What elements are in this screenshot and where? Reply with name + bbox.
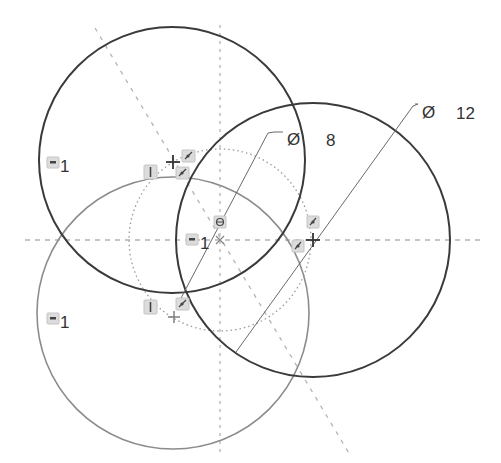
- equal-label: 1: [60, 157, 69, 176]
- equal-label: 1: [60, 313, 69, 332]
- dimension-value: 8: [326, 131, 335, 150]
- tangent-constraint-icon[interactable]: [182, 150, 195, 162]
- tangent-constraint-icon[interactable]: [176, 167, 189, 179]
- diameter-symbol: Ø: [287, 130, 300, 149]
- dimension-value: 12: [456, 104, 475, 123]
- equal-constraint-top[interactable]: 1: [47, 157, 69, 176]
- vertical-constraint-icon[interactable]: [144, 300, 157, 314]
- dimension-leader: [268, 132, 283, 133]
- center-mark-right[interactable]: [306, 233, 320, 247]
- equal-label: 1: [200, 234, 209, 253]
- tangent-constraint-icon[interactable]: [176, 298, 189, 310]
- vertical-constraint-icon[interactable]: [144, 165, 157, 179]
- diagonal-centerline[interactable]: [95, 28, 350, 455]
- diameter-symbol: Ø: [422, 103, 435, 122]
- equal-constraint-center[interactable]: 1: [186, 234, 209, 253]
- coincident-constraint-icon[interactable]: [214, 216, 226, 228]
- sketch-canvas[interactable]: Ø 8 Ø 12 1 1 1: [0, 0, 501, 463]
- circle-top[interactable]: [39, 27, 305, 293]
- circle-lower-left[interactable]: [37, 177, 309, 449]
- tangent-constraint-icon[interactable]: [307, 216, 319, 228]
- construction-lines: [25, 25, 482, 455]
- dimension-leader: [413, 104, 418, 106]
- dimension-dia8[interactable]: Ø 8: [180, 130, 335, 300]
- dimension-dia12[interactable]: Ø 12: [236, 103, 475, 352]
- equal-constraint-bottom[interactable]: 1: [47, 313, 69, 332]
- tangent-constraint-icon[interactable]: [292, 240, 304, 252]
